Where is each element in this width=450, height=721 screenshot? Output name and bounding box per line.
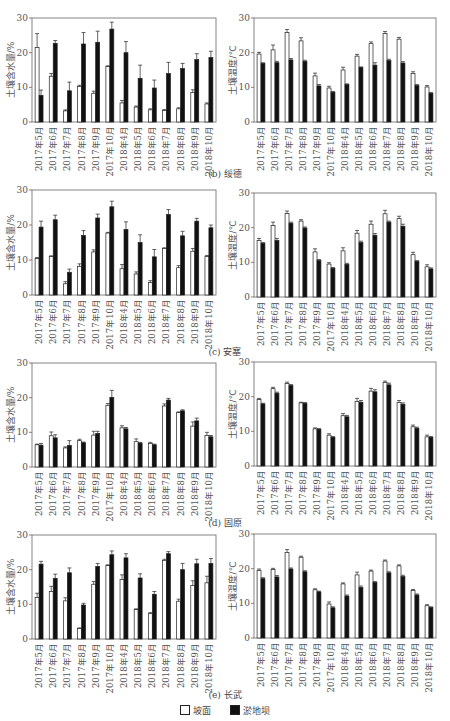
x-tick-label: 2017年10月 — [105, 471, 115, 521]
bar-dam — [138, 243, 142, 296]
bar-slope — [106, 233, 110, 295]
y-tick-label: 30 — [17, 185, 29, 195]
bar-slope — [425, 87, 429, 122]
x-tick-label: 2017年5月 — [256, 126, 266, 171]
bar-dam — [166, 554, 170, 639]
bar-slope — [63, 284, 67, 295]
y-tick-label: 30 — [17, 358, 29, 368]
bar-slope — [191, 93, 195, 122]
x-tick-label: 2018年7月 — [382, 301, 392, 346]
bar-slope — [148, 443, 152, 467]
x-tick-label: 2018年5月 — [354, 470, 364, 515]
x-tick-label: 2017年9月 — [312, 301, 322, 346]
bar-dam — [359, 68, 363, 122]
bar-dam — [275, 63, 279, 122]
bar-dam — [209, 563, 213, 639]
bar-dam — [209, 58, 213, 122]
x-tick-label: 2018年10月 — [204, 471, 214, 521]
chart-canvas: 0102030土壤含水量/%2017年5月2017年6月2017年7月2017年… — [0, 0, 450, 721]
y-tick-label: 0 — [244, 633, 250, 643]
bar-slope — [285, 383, 289, 466]
x-tick-label: 2018年7月 — [161, 299, 171, 344]
y-axis-label: 土壤温度/℃ — [227, 45, 238, 94]
bar-dam — [110, 555, 114, 639]
x-tick-label: 2017年6月 — [48, 299, 58, 344]
bar-slope — [257, 399, 261, 466]
bar-slope — [78, 87, 82, 122]
bar-dam — [261, 579, 265, 638]
x-tick-label: 2017年9月 — [91, 643, 101, 688]
bar-slope — [177, 413, 181, 467]
bar-slope — [341, 584, 345, 638]
x-tick-label: 2017年7月 — [62, 299, 72, 344]
x-tick-label: 2017年6月 — [270, 301, 280, 346]
x-tick-label: 2018年9月 — [410, 301, 420, 346]
bar-slope — [355, 56, 359, 122]
bar-slope — [271, 226, 275, 297]
bar-dam — [181, 69, 185, 122]
bar-slope — [120, 579, 124, 639]
x-tick-label: 2018年5月 — [133, 471, 143, 516]
bar-dam — [373, 583, 377, 638]
x-tick-label: 2018年9月 — [190, 126, 200, 171]
y-tick-label: 10 — [17, 82, 29, 92]
bar-slope — [92, 435, 96, 467]
bar-dam — [429, 269, 433, 297]
x-tick-label: 2018年8月 — [176, 126, 186, 171]
bar-dam — [138, 443, 142, 467]
x-tick-label: 2017年10月 — [326, 301, 336, 351]
x-tick-label: 2018年6月 — [368, 470, 378, 515]
x-tick-label: 2017年7月 — [284, 470, 294, 515]
x-tick-label: 2018年8月 — [396, 642, 406, 687]
x-tick-label: 2017年8月 — [77, 299, 87, 344]
x-tick-label: 2017年7月 — [62, 471, 72, 516]
x-tick-label: 2017年9月 — [91, 471, 101, 516]
y-axis-label: 土壤含水量/% — [5, 558, 16, 615]
x-tick-label: 2017年10月 — [326, 470, 336, 520]
x-tick-label: 2018年4月 — [119, 643, 129, 688]
bar-slope — [92, 252, 96, 295]
bar-slope — [299, 41, 303, 122]
y-tick-label: 20 — [17, 48, 29, 58]
bar-dam — [359, 243, 363, 297]
bar-slope — [369, 44, 373, 122]
x-tick-label: 2017年9月 — [91, 299, 101, 344]
bar-dam — [303, 61, 307, 122]
bar-dam — [401, 226, 405, 297]
bar-dam — [317, 261, 321, 297]
bar-dam — [331, 437, 335, 466]
bar-slope — [49, 436, 53, 467]
x-tick-label: 2018年9月 — [410, 126, 420, 171]
bar-slope — [35, 597, 39, 639]
bar-dam — [331, 268, 335, 297]
bar-slope — [106, 67, 110, 122]
bar-slope — [92, 584, 96, 639]
x-tick-label: 2017年6月 — [270, 126, 280, 171]
bar-dam — [317, 86, 321, 122]
bar-dam — [387, 61, 391, 122]
bar-dam — [415, 86, 419, 122]
y-tick-label: 30 — [17, 13, 29, 23]
y-axis-label: 土壤含水量/% — [5, 41, 16, 98]
bar-dam — [138, 78, 142, 122]
y-tick-label: 10 — [239, 598, 251, 608]
y-tick-label: 30 — [17, 530, 29, 540]
bar-slope — [355, 402, 359, 466]
bar-dam — [67, 91, 71, 122]
bar-slope — [313, 76, 317, 122]
bar-dam — [429, 607, 433, 638]
bar-slope — [411, 591, 415, 638]
bar-dam — [415, 428, 419, 466]
bar-slope — [134, 610, 138, 639]
bar-dam — [181, 570, 185, 639]
bar-slope — [299, 403, 303, 466]
x-tick-label: 2018年10月 — [204, 299, 214, 349]
bar-slope — [327, 435, 331, 466]
bar-dam — [289, 60, 293, 122]
bar-slope — [120, 428, 124, 467]
x-tick-label: 2017年5月 — [256, 470, 266, 515]
bar-slope — [257, 54, 261, 122]
y-tick-label: 0 — [22, 462, 28, 472]
x-tick-label: 2018年9月 — [410, 470, 420, 515]
bar-slope — [78, 441, 82, 467]
